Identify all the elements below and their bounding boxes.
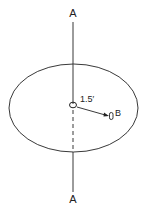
arrowhead-icon [104,113,110,117]
point-b-label: B [115,108,121,118]
radius-arrow [77,107,107,116]
distance-label: 1.5′ [80,94,95,104]
disk-diagram: A A 1.5′ B [0,0,144,210]
point-b-marker [110,113,114,120]
axis-label-bottom: A [69,193,77,205]
axis-label-top: A [69,7,77,19]
